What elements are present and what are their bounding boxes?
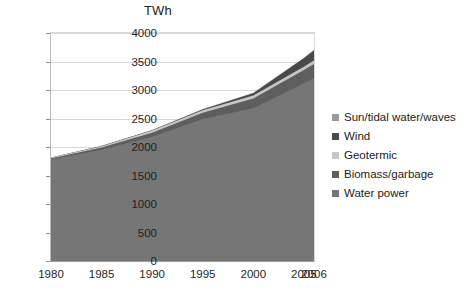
legend-item[interactable]: Sun/tidal water/waves — [332, 108, 474, 127]
y-axis-tick-label: 500 — [113, 227, 157, 239]
y-axis-tick-mark — [46, 62, 50, 63]
legend-item-label: Water power — [344, 188, 409, 200]
x-axis-tick-label: 1985 — [89, 268, 115, 280]
chart-container: TWh 05001000150020002500300035004000 198… — [0, 0, 476, 301]
y-axis-tick-label: 2500 — [113, 113, 157, 125]
y-axis-tick-label: 0 — [113, 255, 157, 267]
x-axis-tick-label: 2000 — [241, 268, 267, 280]
y-axis-tick-mark — [46, 147, 50, 148]
y-axis-tick-label: 3000 — [113, 84, 157, 96]
plot-area — [50, 32, 315, 262]
y-axis-tick-mark — [46, 33, 50, 34]
legend-swatch-icon — [332, 133, 339, 140]
y-axis-tick-label: 4000 — [113, 27, 157, 39]
y-axis-tick-mark — [46, 119, 50, 120]
y-axis-tick-label: 1500 — [113, 170, 157, 182]
legend-swatch-icon — [332, 114, 339, 121]
legend-item-label: Wind — [344, 131, 370, 143]
y-axis-tick-label: 2000 — [113, 141, 157, 153]
x-axis-tick-label: 1990 — [139, 268, 165, 280]
legend-swatch-icon — [332, 171, 339, 178]
x-axis-tick-label: 1980 — [38, 268, 64, 280]
legend-item[interactable]: Geotermic — [332, 146, 474, 165]
y-axis-tick-label: 3500 — [113, 56, 157, 68]
x-axis-tick-label: 2006 — [301, 268, 327, 280]
legend-item[interactable]: Biomass/garbage — [332, 165, 474, 184]
legend-item-label: Geotermic — [344, 150, 397, 162]
legend-item-label: Biomass/garbage — [344, 169, 434, 181]
y-axis-tick-mark — [46, 204, 50, 205]
y-axis-tick-mark — [46, 176, 50, 177]
legend-item-label: Sun/tidal water/waves — [344, 112, 456, 124]
stacked-area-series — [51, 33, 314, 261]
legend-swatch-icon — [332, 152, 339, 159]
x-axis-tick-label: 1995 — [190, 268, 216, 280]
legend-item[interactable]: Wind — [332, 127, 474, 146]
area-series-water-power — [51, 78, 314, 261]
chart-title: TWh — [0, 3, 316, 18]
y-axis-tick-mark — [46, 233, 50, 234]
legend-swatch-icon — [332, 190, 339, 197]
y-axis-tick-label: 1000 — [113, 198, 157, 210]
chart-legend: Sun/tidal water/wavesWindGeotermicBiomas… — [332, 108, 474, 203]
legend-item[interactable]: Water power — [332, 184, 474, 203]
y-axis-tick-mark — [46, 261, 50, 262]
y-axis-tick-mark — [46, 90, 50, 91]
